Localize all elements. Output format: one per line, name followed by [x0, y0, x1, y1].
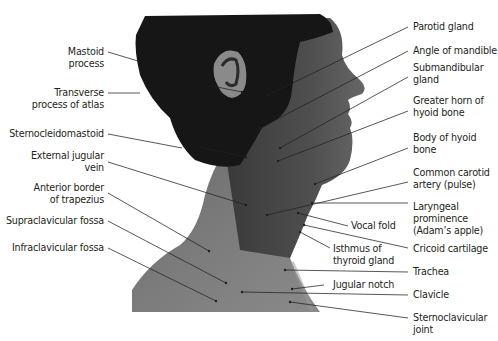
label-transverse-process-atlas: Transverse process of atlas: [32, 87, 104, 111]
label-external-jugular-vein: External jugular vein: [31, 150, 104, 174]
label-supraclavicular-fossa: Supraclavicular fossa: [6, 215, 104, 227]
label-jugular-notch: Jugular notch: [333, 279, 394, 291]
label-angle-of-mandible: Angle of mandible: [413, 45, 497, 57]
label-greater-horn-hyoid: Greater horn of hyoid bone: [413, 95, 484, 119]
anatomy-figure: Mastoid process Transverse process of at…: [0, 0, 498, 341]
label-clavicle: Clavicle: [413, 289, 449, 301]
label-infraclavicular-fossa: Infraclavicular fossa: [12, 242, 104, 254]
label-sternoclavicular-joint: Sternoclavicular joint: [413, 312, 487, 336]
label-vocal-fold: Vocal fold: [351, 220, 396, 232]
label-cricoid-cartilage: Cricoid cartilage: [413, 243, 488, 255]
label-trachea: Trachea: [413, 266, 449, 278]
label-common-carotid-artery: Common carotid artery (pulse): [413, 167, 490, 191]
label-submandibular-gland: Submandibular gland: [413, 62, 483, 86]
label-anterior-border-trapezius: Anterior border of trapezius: [34, 182, 104, 206]
label-mastoid-process: Mastoid process: [68, 46, 104, 70]
label-isthmus-thyroid: Isthmus of thyroid gland: [333, 243, 394, 267]
label-sternocleidomastoid: Sternocleidomastoid: [9, 128, 104, 140]
label-body-of-hyoid: Body of hyoid bone: [413, 132, 476, 156]
label-laryngeal-prominence: Laryngeal prominence (Adam’s apple): [413, 201, 483, 237]
label-parotid-gland: Parotid gland: [413, 21, 474, 33]
